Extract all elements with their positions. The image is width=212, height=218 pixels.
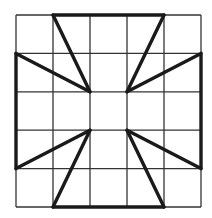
bold-figure-outline [16, 15, 201, 207]
grid-lines [16, 15, 201, 207]
grid-diagram [0, 0, 212, 218]
